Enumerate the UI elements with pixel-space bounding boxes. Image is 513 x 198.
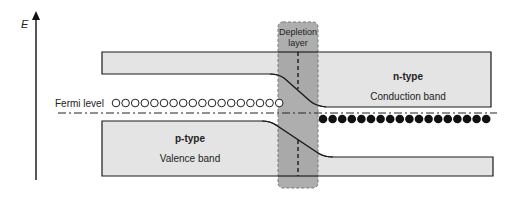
electron-icon bbox=[453, 115, 462, 124]
electron-icon bbox=[357, 115, 366, 124]
hole-icon bbox=[227, 99, 235, 107]
electron-icon bbox=[472, 115, 481, 124]
energy-axis: E bbox=[21, 11, 40, 180]
axis-label-e: E bbox=[21, 18, 29, 30]
hole-icon bbox=[189, 99, 197, 107]
hole-icon bbox=[151, 99, 159, 107]
holes-row bbox=[112, 99, 283, 107]
hole-icon bbox=[218, 99, 226, 107]
hole-icon bbox=[275, 99, 283, 107]
electrons-row bbox=[319, 115, 491, 124]
arrow-up-icon bbox=[32, 11, 40, 20]
electron-icon bbox=[444, 115, 453, 124]
electron-icon bbox=[415, 115, 424, 124]
pn-junction-band-diagram: E Depletion layer Fermi level n-type Con… bbox=[0, 0, 513, 198]
electron-icon bbox=[396, 115, 405, 124]
hole-icon bbox=[208, 99, 216, 107]
electron-icon bbox=[338, 115, 347, 124]
hole-icon bbox=[122, 99, 130, 107]
hole-icon bbox=[170, 99, 178, 107]
hole-icon bbox=[266, 99, 274, 107]
conduction-band-label: Conduction band bbox=[370, 91, 446, 102]
fermi-level-label: Fermi level bbox=[55, 98, 104, 109]
electron-icon bbox=[367, 115, 376, 124]
electron-icon bbox=[328, 115, 337, 124]
depletion-label-line2: layer bbox=[288, 38, 308, 48]
valence-band-label: Valence band bbox=[160, 153, 220, 164]
hole-icon bbox=[256, 99, 264, 107]
electron-icon bbox=[463, 115, 472, 124]
electron-icon bbox=[348, 115, 357, 124]
hole-icon bbox=[141, 99, 149, 107]
n-type-label: n-type bbox=[393, 71, 423, 82]
hole-icon bbox=[160, 99, 168, 107]
electron-icon bbox=[424, 115, 433, 124]
electron-icon bbox=[434, 115, 443, 124]
electron-icon bbox=[482, 115, 491, 124]
hole-icon bbox=[131, 99, 139, 107]
electron-icon bbox=[319, 115, 328, 124]
hole-icon bbox=[237, 99, 245, 107]
depletion-label-line1: Depletion bbox=[279, 27, 317, 37]
electron-icon bbox=[376, 115, 385, 124]
p-type-label: p-type bbox=[175, 133, 205, 144]
hole-icon bbox=[112, 99, 120, 107]
electron-icon bbox=[405, 115, 414, 124]
hole-icon bbox=[179, 99, 187, 107]
diagram-canvas: E Depletion layer Fermi level n-type Con… bbox=[0, 0, 513, 198]
hole-icon bbox=[247, 99, 255, 107]
hole-icon bbox=[199, 99, 207, 107]
electron-icon bbox=[386, 115, 395, 124]
